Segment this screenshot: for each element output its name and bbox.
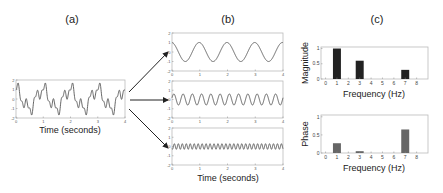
plot-frame-1hz <box>172 33 283 71</box>
svg-text:0.5: 0.5 <box>313 60 320 66</box>
svg-text:2: 2 <box>168 31 171 36</box>
y-axis-title: Magnitude <box>300 42 310 84</box>
svg-text:0: 0 <box>168 50 171 55</box>
svg-text:3: 3 <box>254 72 257 77</box>
svg-text:6: 6 <box>392 80 395 86</box>
svg-text:1: 1 <box>42 119 45 124</box>
panel-label-c: (c) <box>371 13 384 25</box>
svg-text:1: 1 <box>199 119 202 124</box>
arrow-to-1hz-icon <box>129 52 168 92</box>
bar-1hz <box>333 49 341 79</box>
svg-text:1: 1 <box>199 166 202 171</box>
svg-text:1: 1 <box>168 88 171 93</box>
svg-text:2: 2 <box>168 126 171 131</box>
magnitude-bars <box>333 49 409 79</box>
svg-text:2: 2 <box>347 154 350 160</box>
phase-bars <box>333 129 409 153</box>
svg-text:0: 0 <box>168 144 171 149</box>
panel-a-composite-signal: 01234-2-1012 Time (seconds) <box>11 78 127 136</box>
svg-text:-1: -1 <box>167 106 171 111</box>
figure: (a) (b) (c) 01234-2-1012 Time (seconds) … <box>0 0 443 193</box>
svg-text:6: 6 <box>392 154 395 160</box>
sine-1hz <box>172 43 283 62</box>
svg-text:2: 2 <box>12 78 15 83</box>
svg-text:2: 2 <box>168 79 171 84</box>
svg-text:0: 0 <box>168 97 171 102</box>
svg-text:4: 4 <box>124 119 127 124</box>
axis-ticks: 01234-2-101201234-2-101201234-2-1012 <box>167 31 285 172</box>
svg-text:0: 0 <box>15 119 18 124</box>
panel-label-b: (b) <box>221 13 234 25</box>
svg-text:3: 3 <box>254 166 257 171</box>
panel-c-phase: 01234567800.51 Phase Frequency (Hz) <box>300 114 428 173</box>
svg-text:2: 2 <box>226 72 229 77</box>
svg-text:0: 0 <box>171 72 174 77</box>
svg-text:2: 2 <box>347 80 350 86</box>
svg-text:-1: -1 <box>11 106 15 111</box>
panel-label-a: (a) <box>65 13 78 25</box>
axis-ticks: 01234-2-1012 <box>11 78 127 125</box>
svg-text:4: 4 <box>370 154 373 160</box>
svg-text:1: 1 <box>199 72 202 77</box>
sine-3hz <box>172 94 283 105</box>
svg-text:5: 5 <box>381 154 384 160</box>
x-axis-title: Frequency (Hz) <box>343 89 405 99</box>
svg-text:3: 3 <box>254 119 257 124</box>
svg-text:0: 0 <box>12 97 15 102</box>
svg-text:2: 2 <box>69 119 72 124</box>
svg-text:3: 3 <box>358 154 361 160</box>
svg-text:0: 0 <box>317 150 320 156</box>
svg-text:-1: -1 <box>167 59 171 64</box>
svg-text:4: 4 <box>282 166 285 171</box>
y-axis-title: Phase <box>300 121 310 147</box>
svg-text:3: 3 <box>97 119 100 124</box>
x-axis-title: Time (seconds) <box>197 173 259 183</box>
x-axis-title: Frequency (Hz) <box>343 163 405 173</box>
arrow-to-7hz-icon <box>129 109 168 148</box>
svg-text:1: 1 <box>168 135 171 140</box>
bar-3hz <box>356 61 364 79</box>
svg-text:0: 0 <box>171 119 174 124</box>
panel-c-magnitude: 01234567800.51 Magnitude Frequency (Hz) <box>300 42 428 99</box>
bar-7hz <box>401 129 409 153</box>
svg-text:4: 4 <box>282 72 285 77</box>
svg-text:1: 1 <box>317 114 320 120</box>
svg-text:2: 2 <box>226 119 229 124</box>
svg-text:0: 0 <box>324 154 327 160</box>
svg-text:8: 8 <box>415 80 418 86</box>
panel-b-components: 01234-2-101201234-2-101201234-2-1012 Tim… <box>167 31 285 184</box>
svg-text:4: 4 <box>370 80 373 86</box>
svg-text:0: 0 <box>171 166 174 171</box>
svg-text:-1: -1 <box>167 153 171 158</box>
svg-text:8: 8 <box>415 154 418 160</box>
axis-ticks: 01234567800.51 <box>313 45 419 86</box>
svg-text:1: 1 <box>168 40 171 45</box>
svg-text:1: 1 <box>336 80 339 86</box>
x-axis-title: Time (seconds) <box>39 125 101 135</box>
sine-7hz <box>172 144 283 150</box>
svg-text:4: 4 <box>282 119 285 124</box>
svg-text:1: 1 <box>317 45 320 51</box>
svg-text:0: 0 <box>324 80 327 86</box>
composite-waveform <box>16 83 125 115</box>
svg-text:1: 1 <box>336 154 339 160</box>
svg-text:7: 7 <box>404 154 407 160</box>
svg-text:3: 3 <box>358 80 361 86</box>
svg-text:0.5: 0.5 <box>313 132 320 138</box>
svg-text:0: 0 <box>317 76 320 82</box>
svg-text:7: 7 <box>404 80 407 86</box>
svg-text:5: 5 <box>381 80 384 86</box>
svg-text:2: 2 <box>226 166 229 171</box>
svg-text:1: 1 <box>12 87 15 92</box>
